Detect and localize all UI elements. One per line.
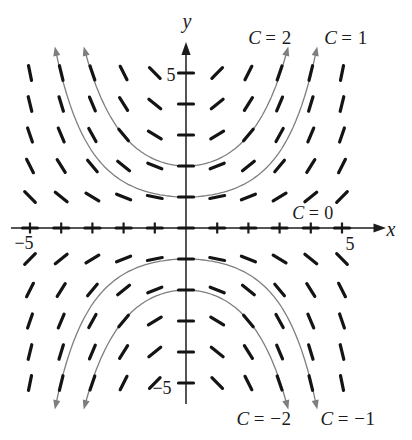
curve-label-c-2-value: = 2 — [265, 27, 291, 48]
y-axis-label: y — [183, 11, 192, 31]
curve-label-c-neg2-value: = −2 — [254, 408, 292, 429]
slope-field-plot — [0, 0, 412, 440]
curve-label-c-1-value: = 1 — [341, 27, 367, 48]
curve-label-c-2: C= 2 — [248, 28, 292, 47]
curve-label-c-1-var: C — [324, 27, 341, 48]
x-tick-label-5: 5 — [346, 235, 355, 253]
curve-label-c-1: C= 1 — [324, 28, 368, 47]
curve-label-c-neg2: C= −2 — [237, 409, 292, 428]
y-tick-label-5: 5 — [167, 66, 176, 84]
y-tick-label-neg5: −5 — [152, 379, 171, 397]
curve-label-c-neg1: C= −1 — [321, 409, 376, 428]
curve-label-c-0-value: = 0 — [309, 203, 334, 223]
curve-label-c-0: C= 0 — [292, 204, 334, 222]
curve-label-c-neg1-var: C — [321, 408, 338, 429]
x-tick-label-neg5: −5 — [14, 234, 33, 252]
x-axis-label: x — [387, 219, 396, 239]
curve-label-c-neg2-var: C — [237, 408, 254, 429]
curve-label-c-neg1-value: = −1 — [338, 408, 376, 429]
direction-field-figure: y x 5 −5 −5 5 C= 2 C= 1 C= 0 C= −2 C= −1 — [0, 0, 412, 440]
curve-label-c-2-var: C — [248, 27, 265, 48]
curve-label-c-0-var: C — [292, 203, 309, 223]
